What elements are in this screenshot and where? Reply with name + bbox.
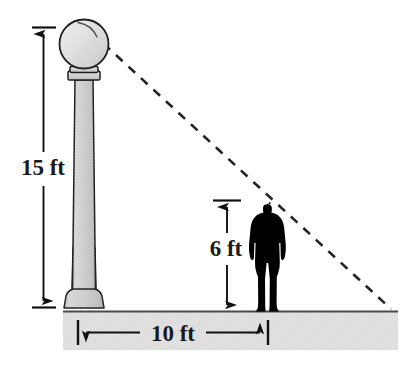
dimension-post-height: 15 ft <box>21 28 65 308</box>
post-height-label: 15 ft <box>21 155 65 180</box>
ground-texture <box>63 312 398 350</box>
ground-distance-label: 10 ft <box>151 321 195 346</box>
dimension-person-height: 6 ft <box>210 201 243 306</box>
person-silhouette <box>249 202 286 312</box>
person-hair-tuft <box>269 202 271 205</box>
ground-band <box>63 312 398 351</box>
lamppost-shaft-texture <box>73 80 96 289</box>
lamppost-globe <box>60 20 109 69</box>
similar-triangles-figure: 15 ft 6 ft 10 ft <box>0 0 418 365</box>
person-height-label: 6 ft <box>210 236 243 261</box>
sight-line-segment <box>91 32 391 309</box>
lamppost <box>60 20 109 309</box>
figure-canvas: 15 ft 6 ft 10 ft <box>0 0 418 365</box>
dashed-sight-line <box>91 32 391 309</box>
person-body <box>249 204 286 312</box>
